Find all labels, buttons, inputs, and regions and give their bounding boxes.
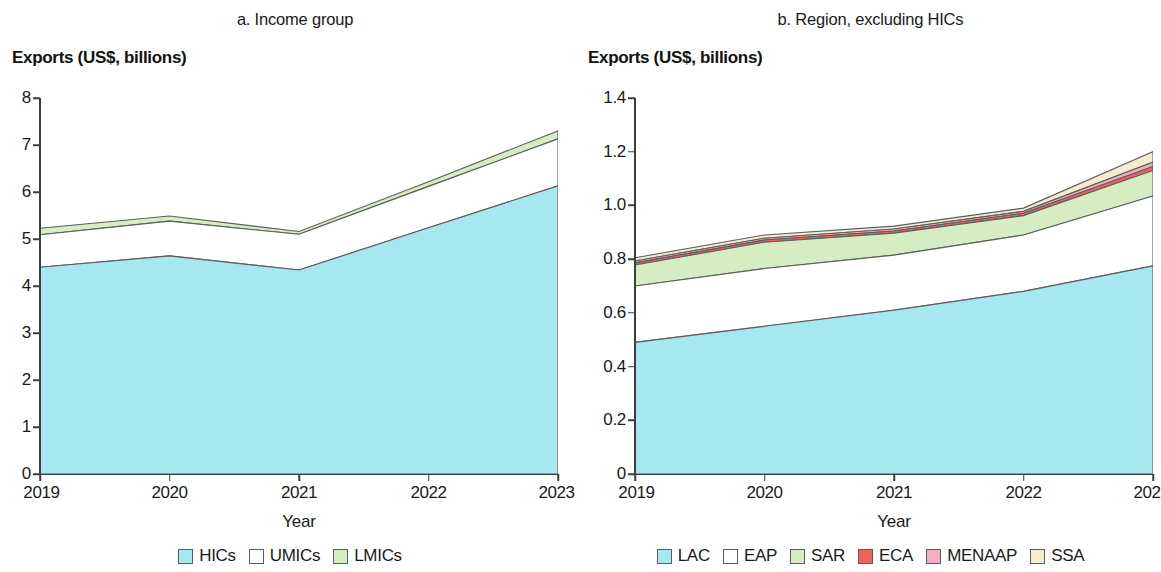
panel-a-areas: [40, 98, 558, 474]
x-tick-label: 2019: [618, 483, 654, 503]
panel-a-y-axis-title: Exports (US$, billions): [12, 48, 186, 68]
x-tick-label: 2019: [23, 483, 59, 503]
panel-b-x-axis-title: Year: [635, 512, 1153, 532]
panel-income-group: a. Income group Exports (US$, billions) …: [0, 0, 580, 572]
panel-b-title: b. Region, excluding HICs: [580, 10, 1161, 29]
y-tick-label: 4: [22, 276, 31, 296]
y-tick-mark: [628, 151, 635, 153]
x-tick-label: 2023: [1133, 483, 1161, 503]
legend-item-umics[interactable]: UMICs: [249, 546, 320, 566]
y-tick-mark: [628, 258, 635, 260]
legend-item-menaap[interactable]: MENAAP: [926, 546, 1017, 566]
y-tick-mark: [33, 144, 40, 146]
legend-swatch-eca-icon: [858, 549, 873, 564]
y-tick-label: 0: [617, 464, 626, 484]
y-tick-mark: [628, 420, 635, 422]
panel-a-title: a. Income group: [0, 10, 580, 29]
y-tick-label: 1: [22, 417, 31, 437]
y-tick-label: 0: [22, 464, 31, 484]
x-tick-mark: [428, 474, 430, 481]
y-tick-label: 8: [22, 88, 31, 108]
y-tick-label: 1.4: [603, 88, 626, 108]
y-tick-label: 0.2: [603, 410, 626, 430]
panel-b-legend: LACEAPSARECAMENAAPSSA: [580, 546, 1161, 566]
x-tick-label: 2022: [410, 483, 446, 503]
legend-label: LMICs: [354, 546, 402, 566]
legend-label: EAP: [744, 546, 777, 566]
x-tick-mark: [298, 474, 300, 481]
legend-label: ECA: [879, 546, 913, 566]
y-tick-mark: [33, 379, 40, 381]
legend-label: MENAAP: [947, 546, 1017, 566]
y-tick-mark: [628, 312, 635, 314]
panel-a-plot-area: 012345678 20192020202120222023 Year: [40, 98, 558, 474]
y-tick-mark: [33, 426, 40, 428]
legend-item-eca[interactable]: ECA: [858, 546, 913, 566]
legend-label: LAC: [678, 546, 710, 566]
y-tick-mark: [33, 238, 40, 240]
legend-label: SAR: [811, 546, 845, 566]
y-tick-mark: [628, 205, 635, 207]
legend-swatch-lmics-icon: [333, 549, 348, 564]
legend-swatch-eap-icon: [723, 549, 738, 564]
legend-label: HICs: [199, 546, 236, 566]
x-tick-label: 2021: [876, 483, 912, 503]
legend-item-sar[interactable]: SAR: [790, 546, 845, 566]
legend-swatch-hics-icon: [178, 549, 193, 564]
legend-swatch-ssa-icon: [1030, 549, 1045, 564]
x-tick-label: 2020: [151, 483, 187, 503]
x-tick-label: 2022: [1005, 483, 1041, 503]
legend-swatch-sar-icon: [790, 549, 805, 564]
x-tick-label: 2020: [746, 483, 782, 503]
y-tick-mark: [628, 97, 635, 99]
y-tick-label: 0.4: [603, 357, 626, 377]
y-tick-label: 3: [22, 323, 31, 343]
x-tick-mark: [39, 474, 41, 481]
panel-a-legend: HICsUMICsLMICs: [0, 546, 580, 566]
x-tick-mark: [764, 474, 766, 481]
x-tick-label: 2021: [281, 483, 317, 503]
y-tick-label: 1.2: [603, 142, 626, 162]
legend-item-lmics[interactable]: LMICs: [333, 546, 402, 566]
legend-item-ssa[interactable]: SSA: [1030, 546, 1084, 566]
x-tick-mark: [557, 474, 559, 481]
y-tick-label: 6: [22, 182, 31, 202]
legend-item-hics[interactable]: HICs: [178, 546, 236, 566]
y-tick-label: 1.0: [603, 195, 626, 215]
panel-b-areas: [635, 98, 1153, 474]
legend-item-eap[interactable]: EAP: [723, 546, 777, 566]
y-tick-label: 0.6: [603, 303, 626, 323]
panel-b-plot-area: 00.20.40.60.81.01.21.4 20192020202120222…: [635, 98, 1153, 474]
x-tick-mark: [1023, 474, 1025, 481]
legend-label: UMICs: [270, 546, 320, 566]
x-tick-label: 2023: [538, 483, 574, 503]
x-tick-mark: [893, 474, 895, 481]
panel-b-y-axis-line: [634, 98, 636, 474]
x-tick-mark: [1152, 474, 1154, 481]
y-tick-mark: [628, 366, 635, 368]
y-tick-label: 7: [22, 135, 31, 155]
legend-item-lac[interactable]: LAC: [657, 546, 710, 566]
figure-root: a. Income group Exports (US$, billions) …: [0, 0, 1161, 572]
y-tick-mark: [33, 191, 40, 193]
legend-swatch-lac-icon: [657, 549, 672, 564]
panel-a-x-axis-title: Year: [40, 512, 558, 532]
legend-label: SSA: [1051, 546, 1084, 566]
y-tick-mark: [33, 285, 40, 287]
y-tick-label: 5: [22, 229, 31, 249]
x-tick-mark: [634, 474, 636, 481]
x-tick-mark: [169, 474, 171, 481]
legend-swatch-umics-icon: [249, 549, 264, 564]
y-tick-label: 2: [22, 370, 31, 390]
legend-swatch-menaap-icon: [926, 549, 941, 564]
panel-region-excluding-hics: b. Region, excluding HICs Exports (US$, …: [580, 0, 1161, 572]
y-tick-mark: [33, 332, 40, 334]
y-tick-label: 0.8: [603, 249, 626, 269]
panel-b-y-axis-title: Exports (US$, billions): [588, 48, 762, 68]
y-tick-mark: [33, 97, 40, 99]
